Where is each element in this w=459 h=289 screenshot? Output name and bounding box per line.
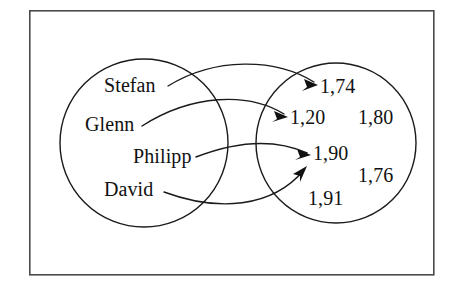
codomain-item-1-80: 1,80 (358, 106, 393, 128)
domain-item-stefan: Stefan (104, 74, 156, 96)
codomain-item-1-20: 1,20 (290, 106, 325, 128)
figure-frame (30, 11, 434, 275)
mapping-diagram: Stefan Glenn Philipp David 1,74 1,20 1,8… (0, 0, 459, 289)
domain-item-david: David (104, 178, 153, 200)
domain-item-philipp: Philipp (133, 145, 192, 168)
codomain-item-1-74: 1,74 (320, 75, 355, 97)
diagram-canvas: Stefan Glenn Philipp David 1,74 1,20 1,8… (0, 0, 459, 289)
codomain-item-1-76: 1,76 (358, 164, 393, 186)
codomain-item-1-91: 1,91 (308, 187, 343, 209)
codomain-item-1-90: 1,90 (313, 142, 348, 164)
domain-item-glenn: Glenn (85, 113, 134, 135)
